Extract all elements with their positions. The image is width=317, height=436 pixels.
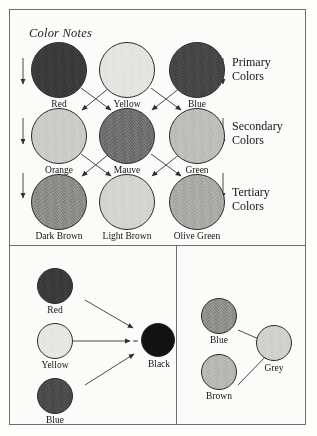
mix-right-input-blue[interactable] xyxy=(201,298,237,334)
swatch-mauve[interactable] xyxy=(99,108,155,164)
mix-left-input-blue[interactable] xyxy=(37,378,73,414)
mix-right-label-brown: Brown xyxy=(192,391,246,401)
row-label-primary: Primary Colors xyxy=(232,56,271,83)
swatch-light-brown[interactable] xyxy=(99,174,155,230)
mix-right-label-grey: Grey xyxy=(256,363,292,373)
swatch-olive-green[interactable] xyxy=(169,174,225,230)
swatch-yellow[interactable] xyxy=(99,42,155,98)
swatch-orange[interactable] xyxy=(31,108,87,164)
swatch-dark-brown[interactable] xyxy=(31,174,87,230)
mix-right-result-grey[interactable] xyxy=(256,325,292,361)
mix-left-label-black: Black xyxy=(134,359,184,369)
mix-left-label-yellow: Yellow xyxy=(28,360,82,370)
mix-left-label-red: Red xyxy=(37,305,73,315)
mix-left-label-blue: Blue xyxy=(37,415,73,425)
mix-left-input-yellow[interactable] xyxy=(37,323,73,359)
mix-left-equals: = xyxy=(133,336,137,346)
swatch-label-olive-green: Olive Green xyxy=(156,231,238,241)
swatch-blue[interactable] xyxy=(169,42,225,98)
mix-left-result-black[interactable] xyxy=(141,323,175,357)
mix-right-input-brown[interactable] xyxy=(201,354,237,390)
horizontal-divider xyxy=(10,245,305,246)
mix-left-input-red[interactable] xyxy=(37,268,73,304)
page-title: Color Notes xyxy=(29,26,92,41)
mix-right-label-blue: Blue xyxy=(201,335,237,345)
color-notes-page: Color Notes xyxy=(0,0,317,436)
swatch-red[interactable] xyxy=(31,42,87,98)
row-label-secondary: Secondary Colors xyxy=(232,120,283,147)
swatch-green[interactable] xyxy=(169,108,225,164)
vertical-divider xyxy=(176,245,177,425)
row-label-tertiary: Tertiary Colors xyxy=(232,186,270,213)
color-notes-card: Color Notes xyxy=(9,9,306,425)
